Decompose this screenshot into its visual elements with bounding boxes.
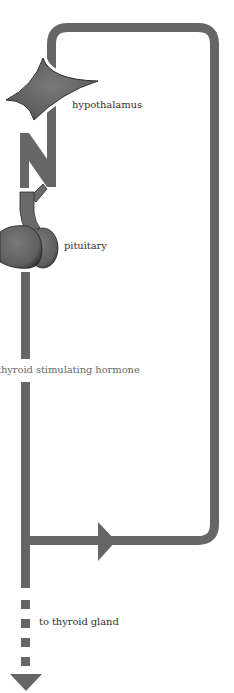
arrow-right-icon [98, 522, 116, 561]
arrow-down-icon [10, 674, 42, 691]
hypothalamus-label: hypothalamus [72, 99, 142, 111]
pituitary-gland-icon [0, 184, 58, 268]
output-dashes [21, 600, 30, 666]
pituitary-label: pituitary [64, 240, 107, 252]
hormone-line-upper [21, 272, 30, 359]
hormone-label: thyroid stimulating hormone [0, 364, 140, 376]
zigzag-signal-icon [20, 128, 56, 188]
thyroid-target-label: to thyroid gland [39, 616, 119, 628]
hormone-line-lower [21, 382, 30, 588]
